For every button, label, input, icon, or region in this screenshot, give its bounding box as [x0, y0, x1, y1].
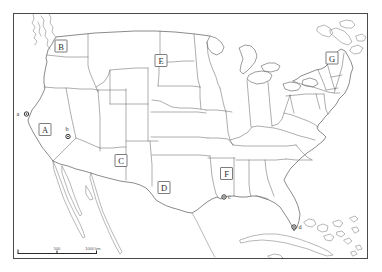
region-label-f[interactable]: F [221, 168, 233, 180]
point-marker-a-center [26, 113, 28, 115]
region-label-e[interactable]: E [155, 55, 167, 67]
region-label-b-text: B [58, 42, 64, 52]
region-label-d-text: D [161, 183, 167, 193]
region-label-g-text: G [329, 54, 335, 64]
region-label-b[interactable]: B [55, 40, 67, 52]
map-figure: A B C D E F G a b c d [0, 0, 382, 272]
region-label-a-text: A [42, 125, 49, 135]
point-marker-a-text: a [17, 110, 20, 117]
scale-label-end: 1000 km [85, 246, 101, 251]
region-label-e-text: E [158, 56, 163, 66]
region-label-c-text: C [118, 156, 124, 166]
point-marker-b-center [67, 136, 69, 138]
scale-label-mid: 500 [54, 246, 61, 251]
us-outline-map: A B C D E F G a b c d [0, 0, 382, 272]
point-marker-c-text: c [228, 193, 231, 200]
region-label-f-text: F [224, 169, 229, 179]
region-label-d[interactable]: D [158, 182, 170, 194]
point-marker-c-center [223, 196, 225, 198]
region-label-c[interactable]: C [115, 155, 127, 167]
point-marker-d-center [293, 226, 295, 228]
point-marker-b-text: b [66, 125, 69, 132]
region-label-g[interactable]: G [326, 52, 338, 64]
region-label-a[interactable]: A [39, 124, 51, 136]
